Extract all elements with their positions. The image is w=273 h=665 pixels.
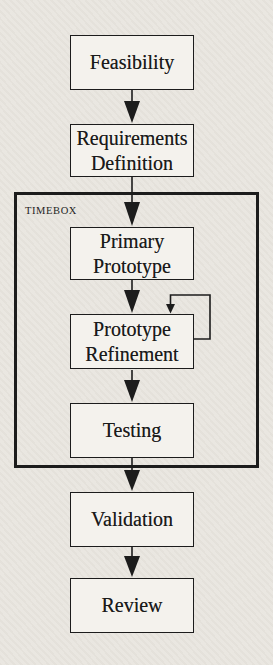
flowchart-canvas: TIMEBOX Feasibility Requirements Definit… [0,0,273,665]
node-review: Review [70,578,194,633]
node-primary-prototype: Primary Prototype [70,227,194,280]
node-validation-label: Validation [91,507,173,532]
arrow-feasibility-to-requirements [124,90,140,123]
node-feasibility: Feasibility [70,35,194,90]
node-testing-label: Testing [103,418,162,443]
timebox-label: TIMEBOX [25,205,77,216]
node-testing: Testing [70,403,194,458]
node-feasibility-label: Feasibility [90,50,174,75]
node-requirements-definition: Requirements Definition [70,124,194,177]
node-validation: Validation [70,492,194,547]
node-primary-prototype-label: Primary Prototype [71,229,193,279]
node-prototype-refinement: Prototype Refinement [70,314,194,369]
arrow-validation-to-review [124,547,140,577]
node-prototype-refinement-label: Prototype Refinement [71,317,193,367]
node-requirements-definition-label: Requirements Definition [71,126,193,176]
node-review-label: Review [101,593,162,618]
